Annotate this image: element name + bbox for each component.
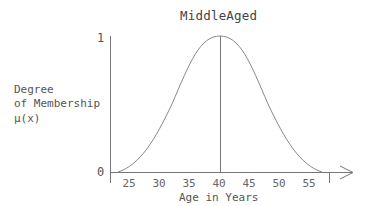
x-tick-30: 30	[152, 177, 165, 190]
x-axis-label: Age in Years	[179, 191, 258, 204]
chart-plot-area	[0, 0, 372, 206]
x-tick-35: 35	[182, 177, 195, 190]
x-tick-25: 25	[122, 177, 135, 190]
x-tick-40: 40	[212, 177, 225, 190]
x-tick-45: 45	[242, 177, 255, 190]
x-tick-50: 50	[272, 177, 285, 190]
x-tick-55: 55	[302, 177, 315, 190]
